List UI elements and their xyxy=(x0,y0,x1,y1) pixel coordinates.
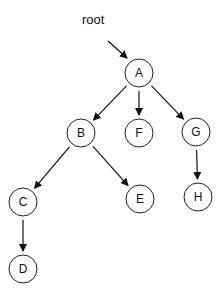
edges xyxy=(23,86,197,251)
svg-text:E: E xyxy=(136,192,144,206)
node-G: G xyxy=(182,118,210,146)
node-B: B xyxy=(67,119,95,147)
edge-A-B xyxy=(94,86,127,120)
svg-text:A: A xyxy=(135,66,143,80)
node-D: D xyxy=(9,255,37,283)
svg-text:B: B xyxy=(77,126,85,140)
node-A: A xyxy=(125,59,153,87)
edge-B-E xyxy=(93,146,128,185)
edge-B-C xyxy=(35,147,70,188)
svg-text:H: H xyxy=(194,190,203,204)
svg-text:C: C xyxy=(19,195,28,209)
root-arrow xyxy=(108,41,127,58)
svg-text:F: F xyxy=(135,126,142,140)
svg-text:G: G xyxy=(191,125,200,139)
edge-A-G xyxy=(152,86,184,119)
node-F: F xyxy=(125,119,153,147)
edge-G-H xyxy=(197,150,198,179)
node-E: E xyxy=(126,185,154,213)
root-label: root xyxy=(82,12,105,27)
svg-text:D: D xyxy=(19,262,28,276)
node-H: H xyxy=(184,183,212,211)
nodes: ABFGCEHD xyxy=(9,59,212,283)
tree-diagram: root ABFGCEHD xyxy=(0,0,224,298)
node-C: C xyxy=(9,188,37,216)
